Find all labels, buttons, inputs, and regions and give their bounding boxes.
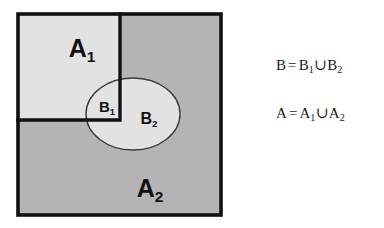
union-icon: ∪ <box>314 56 327 73</box>
equation-a-term1-subscript: 1 <box>310 112 315 123</box>
label-a2-base: A <box>137 174 155 202</box>
label-b2: B2 <box>140 111 157 127</box>
equation-b-term2-subscript: 2 <box>337 64 342 75</box>
label-a2: A2 <box>137 176 164 201</box>
label-b1-subscript: 1 <box>110 107 115 117</box>
equation-b-term2-base: B <box>327 57 337 73</box>
equation-a-term2-base: A <box>329 105 340 121</box>
equation-a-lhs: A <box>276 105 287 121</box>
equation-a: A=A1∪A2 <box>276 105 345 121</box>
equation-b-lhs: B <box>276 57 286 73</box>
equation-b-term1-subscript: 1 <box>309 64 314 75</box>
set-diagram-figure: A1 A2 B1 B2 B=B1∪B2 A=A1∪A2 <box>0 0 384 228</box>
label-a1-base: A <box>69 34 87 62</box>
equation-b-term1-base: B <box>299 57 309 73</box>
label-b1: B1 <box>99 99 115 114</box>
label-b2-subscript: 2 <box>152 118 158 129</box>
union-icon: ∪ <box>315 104 328 121</box>
equation-b-equals: = <box>286 57 299 73</box>
label-b2-base: B <box>140 110 152 127</box>
equation-a-equals: = <box>287 105 300 121</box>
label-a2-subscript: 2 <box>155 187 164 204</box>
label-a1: A1 <box>69 36 96 61</box>
label-b1-base: B <box>99 98 110 115</box>
equation-b: B=B1∪B2 <box>276 57 342 73</box>
label-a1-subscript: 1 <box>87 47 96 64</box>
equation-a-term1-base: A <box>300 105 311 121</box>
equation-a-term2-subscript: 2 <box>340 112 345 123</box>
